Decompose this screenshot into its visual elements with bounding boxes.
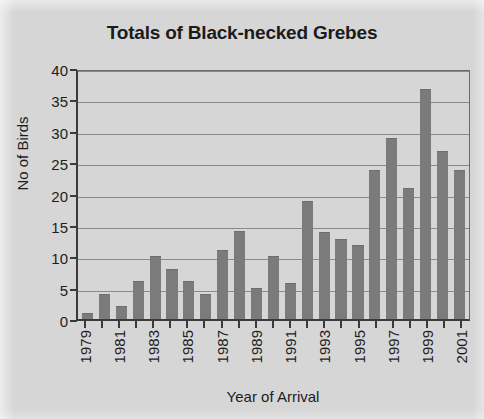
bar (217, 250, 228, 319)
x-axis-title: Year of Arrival (76, 388, 470, 405)
x-tick-label: 1997 (384, 330, 401, 363)
x-tick-slot (230, 321, 247, 328)
x-tick-slot (162, 321, 179, 328)
x-axis-tick-labels: 1979198119831985198719891991199319951997… (76, 330, 470, 386)
x-label-slot: 2001 (453, 330, 470, 386)
x-tick (84, 321, 86, 328)
bar-slot (164, 71, 181, 319)
y-tick-label: 5 (60, 281, 68, 298)
x-label-slot (401, 330, 418, 386)
x-tick-slot (179, 321, 196, 328)
bar (150, 256, 161, 319)
bar (437, 151, 448, 319)
x-tick (460, 321, 462, 328)
bar-slot (400, 71, 417, 319)
x-tick (323, 321, 325, 328)
y-tick-label: 0 (60, 313, 68, 330)
x-tick (306, 321, 308, 328)
x-tick (152, 321, 154, 328)
x-tick-slot (384, 321, 401, 328)
bar-slot (350, 71, 367, 319)
bar-slot (366, 71, 383, 319)
x-tick-slot (247, 321, 264, 328)
x-tick-slot (110, 321, 127, 328)
y-tick-label: 25 (51, 156, 68, 173)
bar (99, 294, 110, 319)
x-tick-label: 1985 (179, 330, 196, 363)
x-tick-slot (196, 321, 213, 328)
y-tick-label: 10 (51, 250, 68, 267)
bar (302, 201, 313, 319)
bar-slot (299, 71, 316, 319)
x-tick (426, 321, 428, 328)
x-tick (221, 321, 223, 328)
x-label-slot: 1993 (316, 330, 333, 386)
x-tick-slot (127, 321, 144, 328)
x-label-slot (264, 330, 281, 386)
bar-slot (197, 71, 214, 319)
x-tick-label: 1995 (350, 330, 367, 363)
x-label-slot (333, 330, 350, 386)
x-tick (289, 321, 291, 328)
x-tick-slot (367, 321, 384, 328)
x-label-slot (299, 330, 316, 386)
bar (369, 170, 380, 319)
bar (285, 283, 296, 319)
x-tick-slot (282, 321, 299, 328)
bar (420, 89, 431, 319)
bar (116, 306, 127, 319)
bar-slot (96, 71, 113, 319)
x-label-slot: 1995 (350, 330, 367, 386)
x-tick-label: 1979 (76, 330, 93, 363)
x-tick (203, 321, 205, 328)
x-label-slot (436, 330, 453, 386)
x-tick-slot (76, 321, 93, 328)
x-label-slot (93, 330, 110, 386)
x-tick-slot (419, 321, 436, 328)
bar-slot (130, 71, 147, 319)
y-tick-label: 20 (51, 187, 68, 204)
x-tick-slot (145, 321, 162, 328)
bar-slot (180, 71, 197, 319)
x-label-slot: 1983 (145, 330, 162, 386)
x-tick-slot (264, 321, 281, 328)
bar-slot (434, 71, 451, 319)
bar-slot (79, 71, 96, 319)
y-axis-tick-labels: 0510152025303540 (24, 70, 68, 321)
x-tick (255, 321, 257, 328)
x-tick-slot (213, 321, 230, 328)
bar-slot (333, 71, 350, 319)
bar (335, 239, 346, 319)
plot-wrap (76, 70, 470, 321)
x-tick-slot (333, 321, 350, 328)
x-label-slot (230, 330, 247, 386)
bar-slot (451, 71, 468, 319)
bar (454, 170, 465, 319)
x-label-slot (162, 330, 179, 386)
bar-slot (113, 71, 130, 319)
bar (200, 294, 211, 319)
x-tick (358, 321, 360, 328)
x-tick (392, 321, 394, 328)
bar (133, 281, 144, 319)
x-label-slot: 1997 (384, 330, 401, 386)
x-tick (443, 321, 445, 328)
y-tick-label: 40 (51, 62, 68, 79)
bar-slot (265, 71, 282, 319)
x-tick (135, 321, 137, 328)
bar (352, 245, 363, 319)
x-tick-slot (436, 321, 453, 328)
plot-area (76, 70, 470, 321)
x-label-slot: 1985 (179, 330, 196, 386)
x-tick (118, 321, 120, 328)
bar-slot (282, 71, 299, 319)
x-tick-label: 1987 (213, 330, 230, 363)
x-tick (340, 321, 342, 328)
x-label-slot (127, 330, 144, 386)
x-tick-label: 1981 (110, 330, 127, 363)
x-label-slot: 1989 (247, 330, 264, 386)
bar-slot (383, 71, 400, 319)
bar-slot (248, 71, 265, 319)
bar-series (78, 71, 469, 319)
x-tick-slot (453, 321, 470, 328)
